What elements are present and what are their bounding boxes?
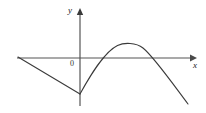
y-axis-arrow-icon [77, 8, 83, 15]
parabola-branch-curve [80, 43, 188, 104]
coordinate-plot-svg [0, 0, 206, 113]
x-axis-label: x [193, 61, 197, 70]
y-axis-label: y [68, 6, 72, 15]
origin-label: 0 [70, 60, 74, 68]
graph-figure: y x 0 [0, 0, 206, 113]
